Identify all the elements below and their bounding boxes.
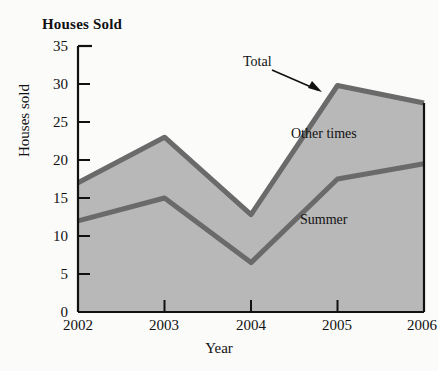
annotation-total: Total xyxy=(243,54,272,70)
x-tick-label: 2005 xyxy=(307,318,367,333)
annotation-other-times: Other times xyxy=(291,126,357,142)
y-tick-label: 35 xyxy=(34,39,68,54)
x-tick-label: 2002 xyxy=(48,318,108,333)
houses-sold-chart: Houses Sold Houses sold Year xyxy=(0,0,438,371)
y-tick-label: 20 xyxy=(34,153,68,168)
y-tick-label: 5 xyxy=(34,267,68,282)
y-tick-label: 15 xyxy=(34,191,68,206)
y-tick-label: 30 xyxy=(34,77,68,92)
x-tick-label: 2006 xyxy=(392,318,438,333)
area-total-fill xyxy=(78,86,424,313)
x-tick-label: 2004 xyxy=(221,318,281,333)
annotation-summer: Summer xyxy=(300,212,347,228)
y-tick-label: 25 xyxy=(34,115,68,130)
x-tick-label: 2003 xyxy=(134,318,194,333)
total-annotation-arrow xyxy=(272,70,322,92)
y-tick-label: 10 xyxy=(34,229,68,244)
